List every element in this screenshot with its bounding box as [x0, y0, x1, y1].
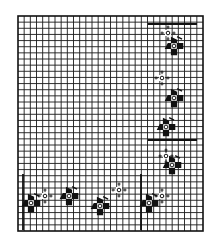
dark-motifs: [22, 37, 184, 216]
cross-stitch-chart: [0, 0, 214, 248]
dark-stitch-motif: [165, 89, 184, 108]
light-stitch-motif: [112, 183, 127, 198]
dark-stitch-motif: [140, 194, 159, 213]
dark-stitch-motif: [60, 187, 79, 206]
